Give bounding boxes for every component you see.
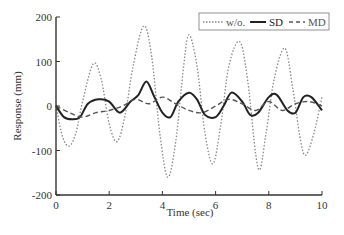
legend-label-sd: SD <box>269 16 283 28</box>
plot-area <box>56 26 322 177</box>
y-tick-label: 0 <box>47 100 53 112</box>
y-tick-label: -200 <box>32 189 53 201</box>
y-axis-label: Response (mm) <box>11 71 24 141</box>
legend-label-md: MD <box>308 16 326 28</box>
x-tick-label: 2 <box>106 199 112 211</box>
y-tick-label: -100 <box>32 145 53 157</box>
legend: w/o. SD MD <box>199 13 329 30</box>
x-axis-label: Time (sec) <box>167 206 214 219</box>
legend-label-wo: w/o. <box>226 16 246 28</box>
x-tick-label: 8 <box>266 199 272 211</box>
y-tick-label: 200 <box>36 11 53 23</box>
response-chart: 2001000-100-200 0246810 Time (sec) Respo… <box>0 0 344 235</box>
x-tick-label: 10 <box>317 199 329 211</box>
x-tick-label: 6 <box>213 199 219 211</box>
x-tick-label: 4 <box>160 199 166 211</box>
x-tick-label: 0 <box>53 199 59 211</box>
series-line-sd <box>56 82 322 120</box>
y-tick-label: 100 <box>36 56 53 68</box>
